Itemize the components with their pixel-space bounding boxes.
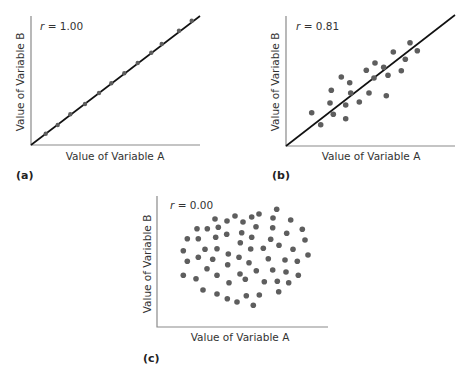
data-point xyxy=(68,112,72,116)
data-point xyxy=(253,268,259,274)
data-point xyxy=(385,73,391,79)
data-point xyxy=(331,112,337,118)
data-point xyxy=(214,273,220,279)
data-point xyxy=(249,235,255,241)
data-point xyxy=(290,247,296,253)
data-point xyxy=(348,90,354,96)
data-point xyxy=(295,259,301,265)
data-point xyxy=(364,68,370,74)
data-point xyxy=(232,213,238,219)
axes xyxy=(157,196,328,327)
y-axis-label: Value of Variable B xyxy=(141,215,153,314)
regression-line xyxy=(286,15,455,146)
data-point xyxy=(415,48,421,54)
data-point xyxy=(270,215,276,221)
correlation-annotation: r = 0.00 xyxy=(170,199,213,211)
data-point xyxy=(214,291,220,297)
data-point xyxy=(318,122,324,128)
data-point xyxy=(275,279,281,285)
data-point xyxy=(193,276,199,282)
data-point xyxy=(236,254,242,260)
data-point xyxy=(160,42,164,46)
y-axis-label: Value of Variable B xyxy=(269,33,281,132)
data-point xyxy=(181,248,187,254)
data-point xyxy=(339,74,345,80)
data-point xyxy=(329,88,335,94)
panel-label: (c) xyxy=(143,352,160,365)
data-point xyxy=(305,252,311,258)
data-point xyxy=(181,273,187,279)
panel-label: (b) xyxy=(272,169,290,182)
data-point xyxy=(243,277,249,283)
data-point xyxy=(204,266,210,272)
data-point xyxy=(177,29,181,33)
data-point xyxy=(213,235,219,241)
data-point xyxy=(399,68,405,74)
data-point xyxy=(282,257,288,263)
data-point xyxy=(226,280,232,286)
data-point xyxy=(196,254,202,260)
data-point xyxy=(288,217,294,223)
data-point xyxy=(366,90,372,96)
data-point xyxy=(136,61,140,65)
data-point xyxy=(384,93,390,99)
data-point xyxy=(234,299,240,305)
data-point xyxy=(274,207,280,213)
data-point xyxy=(391,49,397,55)
data-point xyxy=(309,110,315,116)
data-point xyxy=(202,247,208,253)
data-point xyxy=(266,256,272,262)
data-point xyxy=(225,296,231,302)
correlation-annotation: r = 0.81 xyxy=(296,20,339,32)
data-point xyxy=(210,257,216,263)
data-point xyxy=(56,123,60,127)
data-point xyxy=(283,269,289,275)
correlation-scatterplots-figure: r = 1.00Value of Variable AValue of Vari… xyxy=(0,0,466,371)
data-point xyxy=(343,116,349,122)
data-point xyxy=(205,226,211,232)
scatterplot-panel-b: r = 0.81Value of Variable AValue of Vari… xyxy=(269,15,455,182)
data-point xyxy=(262,279,268,285)
data-point xyxy=(239,230,245,236)
data-point xyxy=(237,271,243,277)
data-point xyxy=(357,99,363,105)
data-point xyxy=(296,273,302,279)
data-point xyxy=(246,260,252,266)
data-point xyxy=(257,292,263,298)
data-point xyxy=(276,243,282,249)
data-point xyxy=(185,259,191,265)
data-point xyxy=(109,81,113,85)
data-point xyxy=(372,60,378,66)
data-point xyxy=(286,280,292,286)
y-axis-label: Value of Variable B xyxy=(14,33,26,132)
data-point xyxy=(149,51,153,55)
data-point xyxy=(44,132,48,136)
data-point xyxy=(270,267,276,273)
data-point xyxy=(224,218,230,224)
data-point xyxy=(343,102,349,108)
data-point xyxy=(300,227,306,233)
data-point xyxy=(196,236,202,242)
panel-label: (a) xyxy=(16,169,33,182)
data-point xyxy=(403,57,409,63)
data-point xyxy=(327,100,333,106)
data-point xyxy=(200,287,206,293)
data-point xyxy=(302,237,308,243)
data-point xyxy=(216,225,222,231)
data-point xyxy=(347,80,353,86)
data-point xyxy=(270,225,276,231)
data-point xyxy=(224,232,230,238)
data-point xyxy=(214,246,220,252)
data-point xyxy=(268,237,274,243)
data-point xyxy=(251,303,257,309)
scatterplot-panel-c: r = 0.00Value of Variable AValue of Vari… xyxy=(141,196,328,365)
data-point xyxy=(371,75,377,81)
data-point xyxy=(407,40,413,46)
data-point xyxy=(226,251,232,257)
scatterplot-panel-a: r = 1.00Value of Variable AValue of Vari… xyxy=(14,16,200,182)
x-axis-label: Value of Variable A xyxy=(66,150,165,162)
data-point xyxy=(276,289,282,295)
data-point xyxy=(97,91,101,95)
data-point xyxy=(248,246,254,252)
x-axis-label: Value of Variable A xyxy=(191,331,290,343)
